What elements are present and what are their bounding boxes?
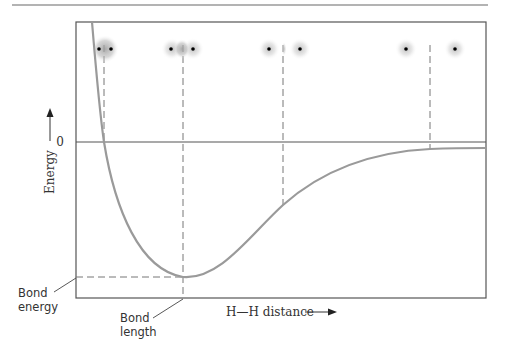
atom-pair-stretched: [258, 38, 311, 60]
bond-length-label-line2: length: [120, 325, 157, 339]
potential-energy-curve: [92, 22, 486, 277]
svg-text:Energy: Energy: [43, 150, 57, 194]
distance-arrow-head-icon: [328, 309, 337, 316]
bond-length-label-line1: Bond: [120, 311, 150, 325]
energy-arrow-head-icon: [47, 108, 54, 117]
bond-energy-label-line1: Bond: [18, 286, 48, 300]
bond-energy-label-line2: energy: [18, 300, 58, 314]
energy-axis-label: Energy: [43, 150, 57, 194]
bond-energy-leader: [54, 278, 76, 292]
atom-pair-bond-length: [161, 38, 204, 60]
bond-length-leader: [153, 299, 183, 318]
zero-label: 0: [56, 135, 64, 149]
plot-frame: [76, 22, 486, 298]
distance-axis-label: H—H distance: [226, 305, 314, 319]
stage-guides: [76, 45, 430, 298]
potential-energy-diagram: 0 Energy H—H distance Bond energy Bond l…: [0, 0, 508, 358]
